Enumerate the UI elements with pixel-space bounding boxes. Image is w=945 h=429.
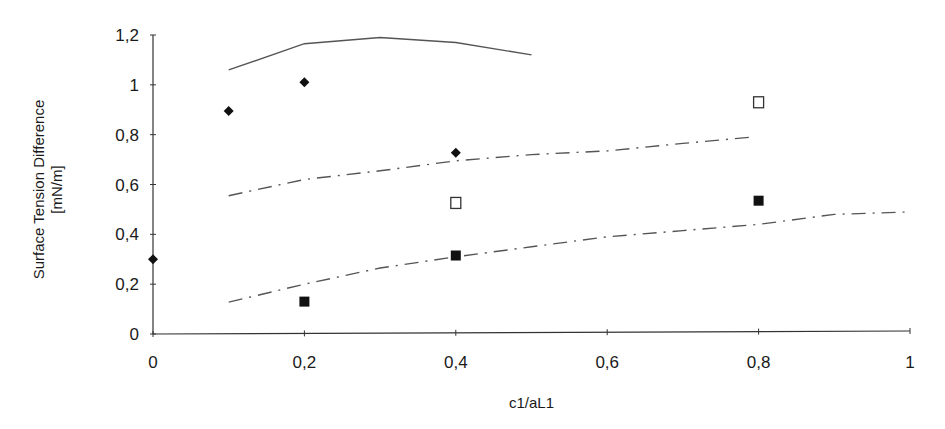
diamond-marker [451,148,461,158]
chart: 00,20,40,60,811,2 00,20,40,60,81 c1/aL1 … [0,0,945,429]
x-tick-label: 0,4 [444,353,468,372]
y-tick-label: 0,8 [115,126,139,145]
diamond-marker [299,77,309,87]
y-axis-title-line2: [mN/m] [48,165,65,213]
y-tick-label: 0,6 [115,176,139,195]
y-axis-ticks: 00,20,40,60,811,2 [115,26,156,344]
solid-curve [229,38,532,70]
x-tick-label: 1 [905,353,914,372]
y-tick-label: 1,2 [115,26,139,45]
upper-dashdot-curve [229,137,751,196]
x-tick-label: 0,2 [293,353,317,372]
diamond-marker [148,254,158,264]
x-axis-title: c1/aL1 [509,394,554,411]
y-axis-title-line1: Surface Tension Difference [30,100,47,280]
lower-dashdot-curve [229,212,910,302]
x-tick-label: 0,8 [747,353,771,372]
y-tick-label: 0 [130,325,139,344]
open-square-marker [754,97,764,108]
filled-square-marker [451,251,461,261]
diamond-marker [224,106,234,116]
y-tick-label: 1 [130,76,139,95]
x-axis-ticks: 00,20,40,60,81 [148,328,914,372]
filled-square-marker [299,297,309,307]
x-tick-label: 0,6 [595,353,619,372]
y-tick-label: 0,2 [115,275,139,294]
series-layer [148,38,910,307]
x-axis-line [153,331,910,334]
y-tick-label: 0,4 [115,225,139,244]
x-tick-label: 0 [148,353,157,372]
filled-square-marker [754,196,764,206]
open-square-marker [451,197,461,208]
